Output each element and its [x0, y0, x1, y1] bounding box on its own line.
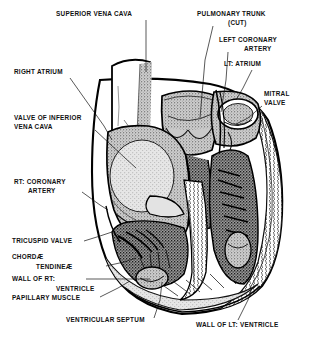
label-left-atrium: LT: ATRIUM	[224, 60, 261, 67]
label-right-atrium: RIGHT ATRIUM	[14, 68, 63, 75]
label-wall-of-left-ventricle: WALL OF LT: VENTRICLE	[196, 321, 279, 328]
papillary-muscle-structure	[136, 267, 168, 289]
heart-diagram-svg: SUPERIOR VENA CAVA PULMONARY TRUNK (CUT)…	[0, 0, 316, 340]
label-papillary-muscle: PAPILLARY MUSCLE	[12, 294, 81, 301]
label-superior-vena-cava: SUPERIOR VENA CAVA	[56, 10, 132, 17]
label-ventricular-septum: VENTRICULAR SEPTUM	[66, 316, 145, 323]
label-tricuspid-valve: TRICUSPID VALVE	[12, 237, 73, 244]
heart-anatomy-figure: SUPERIOR VENA CAVA PULMONARY TRUNK (CUT)…	[0, 0, 316, 340]
